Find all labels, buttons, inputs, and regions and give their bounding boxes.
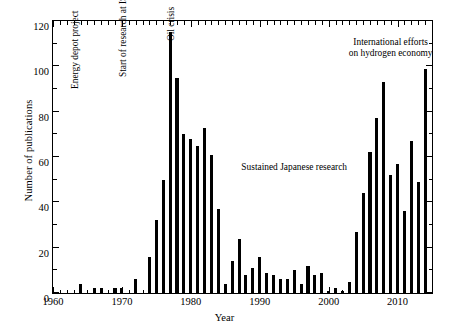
bar bbox=[93, 288, 96, 293]
x-tick-minor-top bbox=[384, 21, 385, 25]
x-tick-minor-top bbox=[287, 21, 288, 25]
y-tick-minor bbox=[53, 179, 57, 180]
bar bbox=[320, 273, 323, 293]
x-tick-minor-top bbox=[143, 21, 144, 25]
bar bbox=[368, 152, 371, 293]
x-tick-label: 2000 bbox=[318, 296, 339, 307]
y-tick-major bbox=[53, 111, 59, 112]
x-tick-minor-top bbox=[87, 21, 88, 25]
x-tick-minor-top bbox=[211, 21, 212, 25]
x-tick-minor-top bbox=[184, 21, 185, 25]
bar bbox=[348, 282, 351, 293]
x-tick-minor bbox=[129, 290, 130, 294]
annotation-sustained-japanese-research: Sustained Japanese research bbox=[241, 162, 347, 173]
x-tick-minor-top bbox=[308, 21, 309, 25]
x-tick-label: 1990 bbox=[249, 296, 270, 307]
bar bbox=[389, 175, 392, 293]
x-tick-major-top bbox=[53, 21, 54, 27]
annotation-international-hydrogen-economy: International effortson hydrogen economy bbox=[349, 37, 433, 59]
x-tick-label: 1960 bbox=[43, 296, 64, 307]
annotation-oil-crisis: Oil crisis bbox=[166, 7, 177, 41]
x-tick-minor-top bbox=[294, 21, 295, 25]
y-tick-minor bbox=[53, 269, 57, 270]
bar bbox=[175, 78, 178, 293]
x-tick-minor bbox=[67, 290, 68, 294]
bar bbox=[403, 211, 406, 293]
x-tick-minor-top bbox=[246, 21, 247, 25]
bar bbox=[162, 180, 165, 293]
y-tick-major-right bbox=[426, 65, 432, 66]
x-tick-minor-top bbox=[177, 21, 178, 25]
x-tick-minor-top bbox=[232, 21, 233, 25]
bar bbox=[279, 279, 282, 293]
x-tick-minor-top bbox=[205, 21, 206, 25]
x-tick-minor-top bbox=[349, 21, 350, 25]
x-tick-minor-top bbox=[149, 21, 150, 25]
bar bbox=[355, 232, 358, 293]
bar bbox=[155, 220, 158, 293]
x-tick-minor bbox=[432, 290, 433, 294]
bar bbox=[224, 284, 227, 293]
bar bbox=[313, 275, 316, 293]
annotation-line: on hydrogen economy bbox=[349, 48, 433, 59]
x-axis-title: Year bbox=[0, 312, 449, 323]
y-tick-major-right bbox=[426, 156, 432, 157]
publications-bar-chart: Number of publications Year 020406080100… bbox=[0, 0, 449, 335]
bar bbox=[196, 146, 199, 293]
x-tick-minor-top bbox=[363, 21, 364, 25]
bar bbox=[238, 239, 241, 293]
annotation-energy-depot-project: Energy depot project bbox=[70, 10, 81, 88]
annotation-line: International efforts bbox=[349, 37, 433, 48]
x-tick-minor-top bbox=[432, 21, 433, 25]
bar bbox=[120, 288, 123, 293]
x-tick-minor-top bbox=[342, 21, 343, 25]
bar bbox=[375, 118, 378, 293]
x-tick-minor bbox=[60, 290, 61, 294]
bar bbox=[244, 275, 247, 293]
x-tick-minor-top bbox=[67, 21, 68, 25]
bar bbox=[396, 164, 399, 293]
annotation-line: Sustained Japanese research bbox=[241, 162, 347, 173]
bar bbox=[169, 32, 172, 293]
x-tick-label: 2010 bbox=[387, 296, 408, 307]
x-tick-major-top bbox=[398, 21, 399, 27]
x-tick-minor-top bbox=[239, 21, 240, 25]
x-tick-minor-top bbox=[322, 21, 323, 25]
x-tick-minor bbox=[143, 290, 144, 294]
x-tick-minor-top bbox=[411, 21, 412, 25]
bar bbox=[306, 266, 309, 293]
y-tick-minor-right bbox=[429, 224, 433, 225]
bar bbox=[189, 139, 192, 293]
x-tick-minor-top bbox=[274, 21, 275, 25]
y-tick-minor bbox=[53, 88, 57, 89]
bar bbox=[300, 284, 303, 293]
x-tick-minor-top bbox=[377, 21, 378, 25]
y-tick-major bbox=[53, 247, 59, 248]
bar bbox=[362, 193, 365, 293]
x-tick-minor-top bbox=[156, 21, 157, 25]
x-tick-minor-top bbox=[60, 21, 61, 25]
x-tick-major-top bbox=[329, 21, 330, 27]
bar bbox=[100, 288, 103, 293]
x-tick-label: 1980 bbox=[180, 296, 201, 307]
bar bbox=[417, 182, 420, 293]
x-tick-minor-top bbox=[425, 21, 426, 25]
x-tick-minor-top bbox=[218, 21, 219, 25]
bar bbox=[210, 155, 213, 293]
bar bbox=[182, 134, 185, 293]
x-tick-minor bbox=[74, 290, 75, 294]
x-tick-minor-top bbox=[225, 21, 226, 25]
x-tick-minor-top bbox=[301, 21, 302, 25]
x-tick-minor-top bbox=[267, 21, 268, 25]
y-tick-major bbox=[53, 156, 59, 157]
y-axis-title: Number of publications bbox=[23, 61, 34, 241]
y-tick-major-right bbox=[426, 201, 432, 202]
x-tick-minor-top bbox=[136, 21, 137, 25]
x-tick-minor-top bbox=[315, 21, 316, 25]
y-tick-minor-right bbox=[429, 269, 433, 270]
x-tick-major bbox=[53, 287, 54, 293]
x-tick-minor bbox=[87, 290, 88, 294]
x-tick-minor-top bbox=[253, 21, 254, 25]
bar bbox=[148, 257, 151, 293]
bar bbox=[113, 288, 116, 293]
